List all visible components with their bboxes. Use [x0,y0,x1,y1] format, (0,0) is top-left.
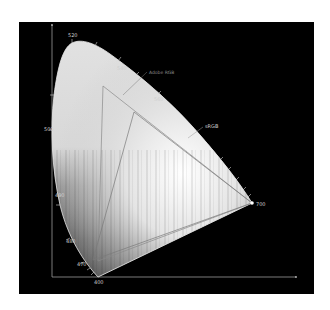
gamut-label-adobe-rgb: Adobe RGB [149,70,174,75]
gamut-label-srgb: sRGB [205,123,219,129]
wl-label-540: 540 [117,65,127,71]
wl-label-490: 490 [55,192,65,198]
spectral-locus [40,30,270,290]
wl-label-480: 480 [66,238,76,244]
chromaticity-diagram: 520 540 560 500 490 480 470 400 700 Adob… [0,0,330,310]
wl-label-560: 560 [154,96,164,102]
wl-label-400: 400 [94,279,104,285]
red-primary-point [250,201,254,205]
wl-label-470: 470 [77,261,87,267]
wl-label-500: 500 [44,126,54,132]
x-axis-end [295,276,297,278]
y-axis-end [51,24,53,26]
wl-label-700: 700 [256,201,266,207]
wl-label-520: 520 [68,32,78,38]
